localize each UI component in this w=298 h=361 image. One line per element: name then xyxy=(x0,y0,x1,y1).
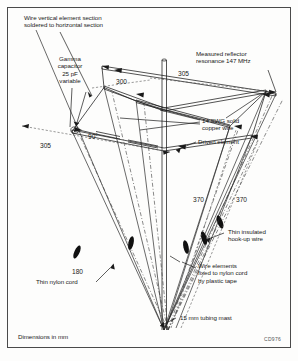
element-370-pairs xyxy=(166,126,258,328)
antenna-assembly-diagram: Wire vertical element section soldered t… xyxy=(0,0,298,361)
label-gamma-capacitor: Gamma capacitor 25 pF variable xyxy=(44,55,96,85)
hookup-wire-group xyxy=(80,92,283,330)
label-measured-resonance: Measured reflector resonance 147 MHz xyxy=(196,50,251,65)
label-plastic-tape: Wire elements fixed to nylon cord by pla… xyxy=(198,262,247,284)
dimension-370-left: 370 xyxy=(193,196,204,204)
dimension-180: 180 xyxy=(72,268,83,276)
dimension-370-right: 370 xyxy=(236,196,247,204)
label-vertical-element-note: Wire vertical element section soldered t… xyxy=(24,14,103,29)
dimension-305-left: 305 xyxy=(40,142,51,150)
tubing-mast xyxy=(162,59,167,330)
element-connecting-wires xyxy=(72,68,276,137)
caption-dimensions-unit: Dimensions in mm xyxy=(18,333,68,340)
label-driven-element: Driven element xyxy=(198,138,239,145)
figure-reference-code: CD976 xyxy=(264,336,281,342)
dimension-305-top: 305 xyxy=(178,70,189,78)
label-nylon-cord: Thin nylon cord xyxy=(36,278,78,285)
reflector-boom xyxy=(104,86,266,128)
dimension-angle-90: 90° xyxy=(88,133,98,141)
label-tubing-mast: 15 mm tubing mast xyxy=(180,314,232,321)
label-copper-wire: 14 SWG solid copper wire xyxy=(202,117,239,132)
plastic-tape-markers xyxy=(72,215,225,260)
label-hookup-wire: Thin insulated hook-up wire xyxy=(228,228,266,243)
dimension-300: 300 xyxy=(116,78,127,86)
